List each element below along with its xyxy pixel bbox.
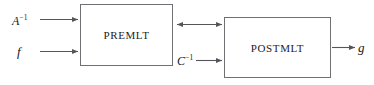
signal-c-exponent: −1 [185, 53, 193, 62]
block-postmlt-label: POSTMLT [251, 42, 304, 54]
signal-g-base: g [358, 40, 365, 55]
signal-label-a-inverse: A−1 [12, 14, 28, 27]
block-premlt: PREMLT [80, 4, 173, 66]
signal-f-base: f [17, 44, 21, 59]
signal-c-base: C [177, 54, 185, 68]
signal-label-g: g [358, 41, 365, 54]
signal-a-exponent: −1 [19, 13, 27, 22]
block-premlt-label: PREMLT [104, 29, 150, 41]
block-postmlt: POSTMLT [224, 17, 331, 78]
signal-label-f: f [17, 45, 21, 58]
block-diagram-figure: PREMLT POSTMLT A−1 f C−1 g [0, 0, 374, 85]
signal-label-c-inverse: C−1 [177, 54, 193, 67]
